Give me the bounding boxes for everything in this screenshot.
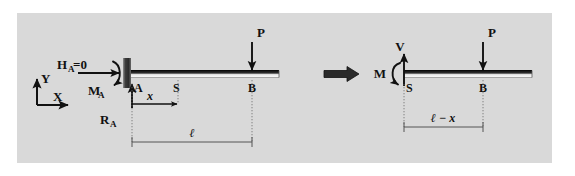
beam-diagram-svg: Y X H A =0 M A (0, 0, 575, 176)
fixed-support-wall (123, 58, 131, 88)
beam-member (131, 71, 279, 78)
figure-container: Y X H A =0 M A (0, 0, 575, 176)
y-axis-label: Y (41, 71, 51, 86)
V-label: V (395, 39, 405, 54)
point-label-S-left: S (173, 81, 180, 95)
P-label-left: P (257, 25, 265, 40)
HA-value: =0 (73, 57, 87, 72)
P-label-right: P (488, 25, 496, 40)
M-label: M (374, 66, 386, 81)
point-label-A: A (134, 81, 143, 95)
l-minus-x-dimension-label: ℓ − x (431, 111, 455, 125)
RA-subscript: A (110, 119, 117, 129)
l-dimension-label: ℓ (189, 126, 194, 140)
point-label-S-right: S (406, 81, 413, 95)
beam-segment-member (404, 71, 532, 78)
x-dimension-label: x (146, 89, 153, 103)
x-axis-label: X (53, 89, 63, 104)
MA-subscript: A (98, 90, 105, 100)
RA-label: R (100, 112, 110, 127)
HA-label: H (57, 57, 67, 72)
